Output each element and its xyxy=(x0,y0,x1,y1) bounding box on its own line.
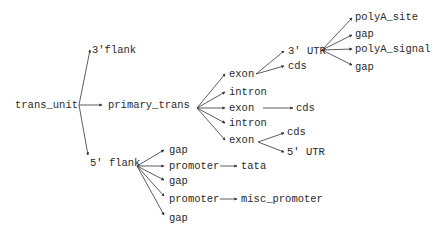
node-exon3: exon xyxy=(229,134,254,146)
node-exon2: exon xyxy=(229,102,254,114)
edge-trans_unit-to-flank3 xyxy=(79,50,90,105)
node-layer: trans_unit3'flankprimary_trans5' flankex… xyxy=(15,11,431,224)
edge-utr3-to-gap_a xyxy=(322,35,352,50)
edge-utr3-to-polyA_site xyxy=(322,18,352,50)
edge-exon3-to-cds3 xyxy=(258,133,284,142)
node-intron2: intron xyxy=(229,117,267,129)
node-tata: tata xyxy=(241,160,266,172)
node-utr3: 3' UTR xyxy=(288,45,327,57)
node-gap1: gap xyxy=(169,144,188,156)
edge-exon1-to-cds1 xyxy=(256,66,284,74)
node-flank5: 5' flank xyxy=(90,157,140,169)
node-promoter2: promoter xyxy=(169,193,219,205)
node-gap3: gap xyxy=(169,212,188,224)
gene-structure-tree-diagram: trans_unit3'flankprimary_trans5' flankex… xyxy=(0,0,443,237)
node-gap2: gap xyxy=(169,175,188,187)
node-polyA-site: polyA_site xyxy=(355,11,418,23)
edge-exon3-to-utr5 xyxy=(258,142,284,152)
edge-exon1-to-utr3 xyxy=(256,51,284,74)
node-cds1: cds xyxy=(288,60,307,72)
node-utr5: 5' UTR xyxy=(287,146,326,158)
node-promoter1: promoter xyxy=(169,160,219,172)
node-gap-b: gap xyxy=(355,61,374,73)
node-misc-promoter: misc_promoter xyxy=(241,193,323,205)
edge-utr3-to-polyA_signal xyxy=(322,49,352,50)
edge-trans_unit-to-flank5 xyxy=(79,105,88,155)
node-polyA-signal: polyA_signal xyxy=(355,43,431,55)
edge-primary_trans-to-intron2 xyxy=(197,108,225,123)
edge-primary_trans-to-exon1 xyxy=(197,74,225,108)
node-cds3: cds xyxy=(287,126,306,138)
node-gap-a: gap xyxy=(355,28,374,40)
node-exon1: exon xyxy=(229,68,254,80)
node-primary-trans: primary_trans xyxy=(108,99,190,111)
edge-primary_trans-to-exon3 xyxy=(197,108,225,140)
node-cds2: cds xyxy=(296,102,315,114)
edge-utr3-to-gap_b xyxy=(322,50,352,65)
edge-flank5-to-promoter2 xyxy=(137,166,164,196)
node-flank3: 3'flank xyxy=(92,44,136,56)
node-trans-unit: trans_unit xyxy=(15,99,78,111)
edge-primary_trans-to-intron1 xyxy=(197,92,225,108)
node-intron1: intron xyxy=(229,86,267,98)
edge-flank5-to-gap1 xyxy=(137,150,164,166)
